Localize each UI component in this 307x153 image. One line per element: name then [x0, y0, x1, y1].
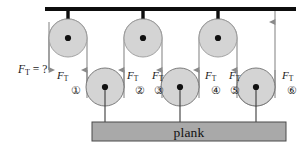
plank-label: plank	[92, 125, 286, 141]
unknown-force-equals: = ?	[33, 63, 47, 75]
segment-number-6: ⑥	[287, 85, 297, 96]
unknown-force-symbol: F	[18, 63, 25, 75]
bottom-pulley-1-hub	[102, 84, 108, 90]
force-label-5-symbol: F	[229, 69, 236, 81]
segment-number-1: ①	[71, 85, 81, 96]
top-pulley-1-hub	[65, 35, 71, 41]
force-label-1-symbol: F	[57, 69, 64, 81]
force-label-5: FT	[229, 70, 240, 83]
bottom-pulley-3-hub	[253, 84, 259, 90]
bottom-pulley-2-hub	[177, 84, 183, 90]
pulley-system-figure: FT = ? FT FT FT FT FT FT ① ② ③ ④ ⑤ ⑥ pla…	[0, 0, 307, 153]
top-pulley-3-hub	[215, 35, 221, 41]
force-label-6: FT	[282, 70, 293, 83]
top-pulley-2-hub	[140, 35, 146, 41]
force-label-2-symbol: F	[127, 69, 134, 81]
force-label-4: FT	[205, 70, 216, 83]
force-label-4-symbol: F	[205, 69, 212, 81]
force-label-1: FT	[57, 70, 68, 83]
unknown-force-label: FT = ?	[18, 64, 47, 77]
top-pulleys-group	[49, 19, 237, 57]
segment-number-5: ⑤	[230, 85, 240, 96]
force-label-2: FT	[127, 70, 138, 83]
force-label-1-subscript: T	[64, 74, 69, 83]
segment-number-2: ②	[135, 85, 145, 96]
force-label-3: FT	[152, 70, 163, 83]
force-label-4-subscript: T	[212, 74, 217, 83]
segment-number-4: ④	[211, 85, 221, 96]
force-label-3-subscript: T	[159, 74, 164, 83]
ceiling-support-bar	[45, 7, 296, 11]
force-label-3-symbol: F	[152, 69, 159, 81]
force-label-5-subscript: T	[236, 74, 241, 83]
segment-number-3: ③	[154, 85, 164, 96]
force-label-6-subscript: T	[289, 74, 294, 83]
unknown-force-subscript: T	[25, 68, 30, 77]
force-label-6-symbol: F	[282, 69, 289, 81]
force-label-2-subscript: T	[134, 74, 139, 83]
